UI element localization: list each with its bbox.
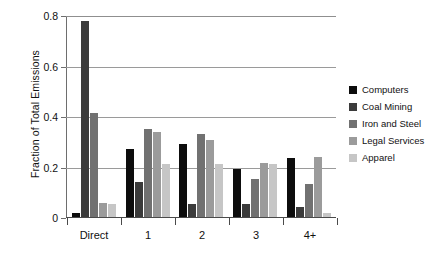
- y-tick-mark: [61, 168, 66, 169]
- legend-item: Computers: [349, 81, 435, 98]
- bar: [81, 21, 89, 217]
- legend-label: Apparel: [362, 152, 395, 163]
- x-axis-label: Direct: [67, 229, 121, 241]
- y-tick-mark: [61, 117, 66, 118]
- bar-chart: Fraction of Total Emissions 00.20.40.60.…: [0, 0, 436, 264]
- legend-label: Computers: [362, 84, 408, 95]
- y-tick-mark: [61, 218, 66, 219]
- x-tick-mark: [337, 218, 338, 225]
- legend-label: Coal Mining: [362, 101, 412, 112]
- legend-item: Iron and Steel: [349, 115, 435, 132]
- legend-label: Iron and Steel: [362, 118, 421, 129]
- legend-swatch-icon: [349, 154, 357, 162]
- bars-layer: [67, 16, 336, 217]
- y-tick-label: 0.2: [43, 162, 58, 174]
- legend-item: Legal Services: [349, 132, 435, 149]
- bar: [144, 129, 152, 217]
- legend-item: Apparel: [349, 149, 435, 166]
- legend-swatch-icon: [349, 137, 357, 145]
- y-tick-label: 0.4: [43, 111, 58, 123]
- x-axis-label: 3: [229, 229, 283, 241]
- bar: [242, 204, 250, 217]
- bar: [179, 144, 187, 217]
- x-tick-mark: [67, 218, 68, 225]
- y-axis-title: Fraction of Total Emissions: [29, 19, 41, 209]
- bar: [197, 134, 205, 217]
- bar: [296, 207, 304, 217]
- x-axis-label: 4+: [283, 229, 337, 241]
- bar-group: [121, 16, 175, 217]
- bar: [251, 179, 259, 217]
- y-tick-label: 0: [52, 212, 58, 224]
- bar: [269, 164, 277, 217]
- legend-swatch-icon: [349, 120, 357, 128]
- y-tick-mark: [61, 16, 66, 17]
- x-tick-mark: [229, 218, 230, 225]
- legend-item: Coal Mining: [349, 98, 435, 115]
- legend-label: Legal Services: [362, 135, 424, 146]
- bar-group: [175, 16, 229, 217]
- legend-swatch-icon: [349, 103, 357, 111]
- legend-swatch-icon: [349, 86, 357, 94]
- bar: [305, 184, 313, 217]
- x-tick-mark: [121, 218, 122, 225]
- bar: [314, 157, 322, 217]
- y-tick-mark: [61, 67, 66, 68]
- x-axis-label: 2: [175, 229, 229, 241]
- legend: ComputersCoal MiningIron and SteelLegal …: [349, 81, 435, 166]
- bar: [215, 164, 223, 217]
- bar: [233, 169, 241, 217]
- x-tick-mark: [175, 218, 176, 225]
- bar: [287, 158, 295, 217]
- bar-group: [282, 16, 336, 217]
- bar: [135, 182, 143, 217]
- bar: [162, 164, 170, 217]
- plot-area: 00.20.40.60.8: [66, 16, 336, 218]
- bar: [206, 140, 214, 217]
- bar: [126, 149, 134, 217]
- y-tick-label: 0.6: [43, 61, 58, 73]
- y-tick-label: 0.8: [43, 10, 58, 22]
- bar: [90, 113, 98, 217]
- bar: [99, 203, 107, 217]
- bar-group: [228, 16, 282, 217]
- x-axis-tick-marks: [67, 218, 337, 228]
- x-axis-labels: Direct1234+: [67, 229, 337, 241]
- bar: [153, 132, 161, 217]
- bar: [108, 204, 116, 217]
- bar: [260, 163, 268, 217]
- x-tick-mark: [283, 218, 284, 225]
- bar-group: [67, 16, 121, 217]
- bar: [188, 204, 196, 217]
- x-axis-label: 1: [121, 229, 175, 241]
